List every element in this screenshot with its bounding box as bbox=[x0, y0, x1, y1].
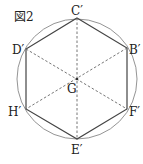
vertex-label-h: H′ bbox=[8, 105, 21, 119]
center-point bbox=[76, 78, 79, 81]
vertex-label-e: E′ bbox=[71, 143, 83, 157]
figure-title: 図2 bbox=[14, 10, 34, 24]
vertex-label-d: D′ bbox=[12, 43, 25, 57]
vertex-label-b: B′ bbox=[129, 43, 141, 57]
vertex-label-c: C′ bbox=[71, 4, 83, 18]
vertex-label-f: F′ bbox=[129, 105, 140, 119]
hexagon-figure: 図2 C′ B′ F′ E′ H′ D′ G bbox=[0, 0, 143, 164]
center-label-g: G bbox=[67, 82, 77, 96]
